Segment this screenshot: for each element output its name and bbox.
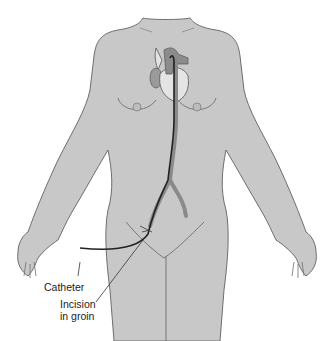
catheter-leader	[78, 262, 80, 276]
nipple-right	[193, 103, 201, 111]
incision-label-line1: Incision	[60, 298, 96, 310]
nipple-left	[133, 103, 141, 111]
incision-label-line2: in groin	[60, 310, 94, 322]
catheter-label: Catheter	[44, 281, 84, 293]
